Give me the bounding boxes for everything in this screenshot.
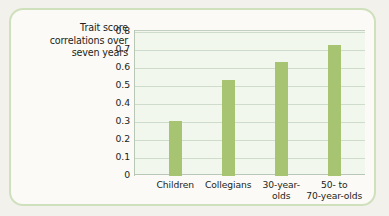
bar [222,80,236,176]
bar [328,45,342,176]
y-axis-tick-label: 0 [104,170,130,179]
y-axis-tick-label: 0.1 [104,152,130,161]
gridline [135,32,365,33]
y-axis-tick-label: 0.2 [104,134,130,143]
plot-area [135,30,365,175]
y-axis-tick-label: 0.8 [104,26,130,35]
bar [169,121,183,176]
y-axis-tick-label: 0.7 [104,44,130,53]
y-axis-tick-label: 0.6 [104,62,130,71]
y-axis-tick-label: 0.3 [104,116,130,125]
x-axis-tick-label: 50- to70-year-olds [296,179,372,201]
y-axis-tick-label: 0.5 [104,80,130,89]
bar [275,62,289,176]
x-axis-tick-label-line: 50- to [296,179,372,190]
y-axis-tick-labels: 0.80.70.60.50.40.30.20.10 [100,0,130,216]
y-axis-spine [134,30,135,176]
y-axis-tick-label: 0.4 [104,98,130,107]
x-axis-tick-label-line: 70-year-olds [296,190,372,201]
